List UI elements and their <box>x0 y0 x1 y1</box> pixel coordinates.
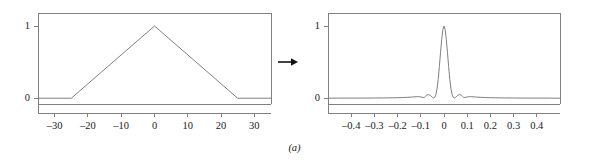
y-tick-label: 0 <box>302 93 320 104</box>
x-tick-label: –20 <box>73 121 103 132</box>
x-tick-label: –30 <box>40 121 70 132</box>
x-tick-label: 0.4 <box>522 121 552 132</box>
x-tick-label: –10 <box>106 121 136 132</box>
left-plot-ticks <box>55 113 255 117</box>
figure-caption: (a) <box>0 142 589 153</box>
x-tick-label: 0 <box>140 121 170 132</box>
right-plot-ticks <box>351 113 537 117</box>
right-plot-panel: 01–0.4–0.3–0.2–0.100.10.20.30.4 <box>295 0 589 164</box>
right-plot-svg <box>295 0 589 164</box>
y-tick-label: 0 <box>12 93 30 104</box>
right-plot-series-line <box>328 26 560 98</box>
y-tick-label: 1 <box>302 21 320 32</box>
left-plot-series-line <box>38 26 271 98</box>
x-tick-label: 10 <box>173 121 203 132</box>
x-tick-label: 20 <box>206 121 236 132</box>
y-tick-label: 1 <box>12 21 30 32</box>
left-plot-svg <box>0 0 295 164</box>
x-tick-label: 30 <box>239 121 269 132</box>
left-plot-panel: 01–30–20–100102030 <box>0 0 295 164</box>
figure-container: 01–30–20–100102030 01–0.4–0.3–0.2–0.100.… <box>0 0 589 164</box>
